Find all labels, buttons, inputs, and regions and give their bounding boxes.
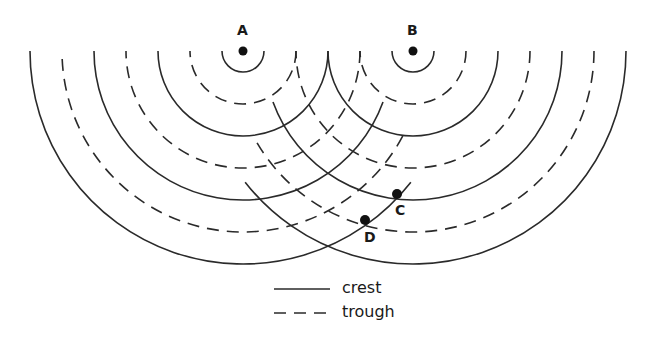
legend-lines <box>274 289 330 313</box>
wave-trough-arc <box>253 51 594 232</box>
source-dot <box>409 47 418 56</box>
wave-trough-arc <box>360 51 466 104</box>
wave-crest-arc <box>30 51 411 264</box>
interference-point-dot <box>360 215 370 225</box>
wave-crest-arc <box>273 51 562 200</box>
wave-crest-arc <box>328 51 498 136</box>
source-dot <box>239 47 248 56</box>
point-label-d: D <box>364 229 376 245</box>
interference-diagram <box>0 0 655 342</box>
wave-arcs <box>30 51 626 264</box>
legend-crest-label: crest <box>342 278 381 297</box>
wave-trough-arc <box>296 51 530 168</box>
wave-crest-arc <box>245 51 626 264</box>
source-label-b: B <box>407 22 418 38</box>
wave-trough-arc <box>190 51 296 104</box>
point-label-c: C <box>395 202 405 218</box>
legend-trough-label: trough <box>342 302 395 321</box>
wave-crest-arc <box>158 51 328 136</box>
wave-crest-arc <box>94 51 383 200</box>
source-label-a: A <box>237 22 248 38</box>
interference-point-dot <box>392 189 402 199</box>
wave-trough-arc <box>126 51 360 168</box>
wave-trough-arc <box>62 51 403 232</box>
